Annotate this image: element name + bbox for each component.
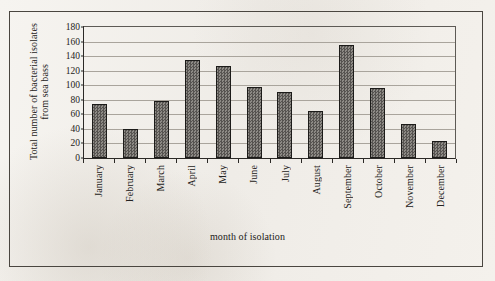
y-axis-tick-label: 100 [66, 80, 84, 90]
x-axis-label-december: December [435, 165, 446, 207]
y-axis-title: Total number of bacterial isolates from … [24, 12, 54, 172]
x-axis-label-july: July [280, 165, 291, 182]
x-axis-tick-mark [83, 159, 84, 163]
x-axis-label-slot: April [176, 165, 207, 227]
bar-slot [424, 27, 455, 158]
bar-slot [393, 27, 424, 158]
x-axis-tick-mark [363, 159, 364, 163]
x-axis-tick-mark [456, 159, 457, 163]
x-axis-label-slot: November [394, 165, 425, 227]
x-axis-label-april: April [186, 165, 197, 187]
bar-september[interactable] [339, 45, 354, 158]
bar-series [84, 27, 455, 158]
x-axis-title: month of isolation [0, 231, 495, 242]
x-axis-label-february: February [124, 165, 135, 202]
y-axis-tick-label: 40 [71, 124, 85, 134]
x-axis-tick-mark [238, 159, 239, 163]
x-axis-label-slot: October [363, 165, 394, 227]
x-axis-label-slot: September [332, 165, 363, 227]
bar-slot [270, 27, 301, 158]
x-axis-label-slot: July [269, 165, 300, 227]
x-axis-label-october: October [373, 165, 384, 198]
bar-slot [84, 27, 115, 158]
x-axis-label-november: November [404, 165, 415, 208]
bar-april[interactable] [185, 60, 200, 158]
bar-june[interactable] [247, 87, 262, 158]
bar-slot [115, 27, 146, 158]
bar-slot [146, 27, 177, 158]
x-axis-label-slot: August [301, 165, 332, 227]
x-axis-category-labels: JanuaryFebruaryMarchAprilMayJuneJulyAugu… [83, 165, 456, 227]
x-axis-tick-mark [114, 159, 115, 163]
bar-october[interactable] [370, 88, 385, 158]
bar-february[interactable] [123, 129, 138, 158]
x-axis-label-january: January [93, 165, 104, 197]
x-axis-tick-marks [83, 159, 456, 163]
y-axis-tick-label: 20 [71, 138, 85, 148]
plot-area: 020406080100120140160180 [83, 26, 456, 159]
y-axis-tick-label: 80 [71, 95, 85, 105]
x-axis-label-march: March [155, 165, 166, 192]
bar-slot [331, 27, 362, 158]
bar-slot [362, 27, 393, 158]
x-axis-label-slot: January [83, 165, 114, 227]
x-axis-label-june: June [248, 165, 259, 184]
x-axis-label-august: August [311, 165, 322, 195]
bar-march[interactable] [154, 101, 169, 158]
y-axis-title-line-2: from sea bass [39, 64, 50, 120]
x-axis-tick-mark [425, 159, 426, 163]
bar-august[interactable] [308, 111, 323, 158]
x-axis-label-slot: February [114, 165, 145, 227]
x-axis-label-slot: May [207, 165, 238, 227]
x-axis-label-september: September [342, 165, 353, 209]
y-axis-tick-label: 180 [66, 22, 84, 32]
y-axis-tick-label: 160 [66, 37, 84, 47]
y-axis-tick-label: 140 [66, 51, 84, 61]
bar-slot [239, 27, 270, 158]
bar-july[interactable] [277, 92, 292, 158]
bar-slot [208, 27, 239, 158]
y-axis-title-line-1: Total number of bacterial isolates [28, 23, 39, 160]
bar-january[interactable] [92, 104, 107, 158]
x-axis-tick-mark [176, 159, 177, 163]
bar-slot [300, 27, 331, 158]
y-axis-tick-label: 60 [71, 109, 85, 119]
x-axis-tick-mark [270, 159, 271, 163]
chart-figure: Total number of bacterial isolates from … [0, 0, 495, 281]
x-axis-tick-mark [332, 159, 333, 163]
x-axis-label-slot: June [238, 165, 269, 227]
x-axis-tick-mark [207, 159, 208, 163]
bar-slot [177, 27, 208, 158]
x-axis-tick-mark [145, 159, 146, 163]
x-axis-tick-mark [301, 159, 302, 163]
x-axis-label-may: May [217, 165, 228, 184]
y-axis-tick-label: 120 [66, 66, 84, 76]
bar-may[interactable] [216, 66, 231, 158]
bar-november[interactable] [401, 124, 416, 158]
x-axis-tick-mark [394, 159, 395, 163]
bar-december[interactable] [432, 141, 447, 158]
x-axis-label-slot: March [145, 165, 176, 227]
x-axis-label-slot: December [425, 165, 456, 227]
